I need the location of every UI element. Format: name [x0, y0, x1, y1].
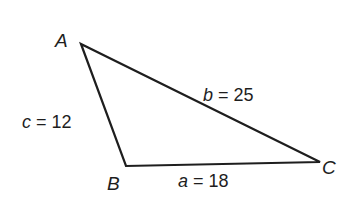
triangle-abc [81, 44, 320, 166]
side-label-b: b = 25 [203, 85, 254, 105]
vertex-label-a: A [54, 30, 68, 51]
side-label-a: a = 18 [178, 171, 229, 191]
vertex-label-c: C [322, 157, 336, 178]
triangle-diagram: A B C c = 12 b = 25 a = 18 [0, 0, 364, 202]
side-label-c: c = 12 [22, 112, 72, 132]
vertex-label-b: B [107, 173, 120, 194]
